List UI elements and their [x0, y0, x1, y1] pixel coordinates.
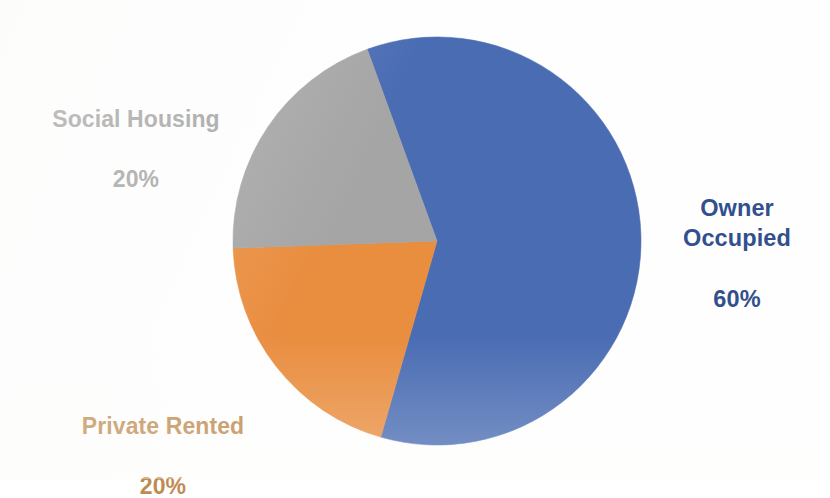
- data-label-social-housing-name: Social Housing: [14, 105, 258, 135]
- pie-slice-group: [233, 37, 641, 445]
- data-label-owner-occupied-name: Owner Occupied: [648, 193, 826, 254]
- data-label-private-rented-name: Private Rented: [36, 412, 290, 442]
- data-label-owner-occupied-value: 60%: [648, 284, 826, 315]
- data-label-private-rented-value: 20%: [36, 472, 290, 498]
- data-label-owner-occupied: Owner Occupied 60%: [648, 162, 826, 345]
- data-label-private-rented: Private Rented 20%: [36, 382, 290, 498]
- data-label-social-housing: Social Housing 20%: [14, 75, 258, 224]
- data-label-social-housing-value: 20%: [14, 165, 258, 195]
